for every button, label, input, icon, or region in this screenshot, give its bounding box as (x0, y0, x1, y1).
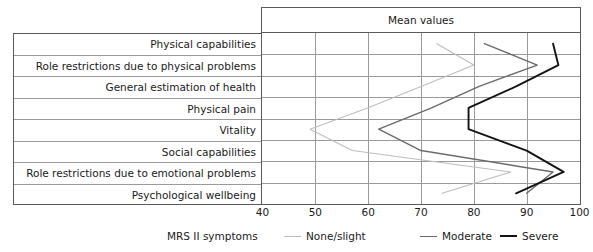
legend-item[interactable]: Moderate (420, 230, 492, 242)
category-label-table: Physical capabilitiesRole restrictions d… (13, 33, 261, 205)
legend-item[interactable]: Severe (500, 230, 558, 242)
plot-svg (262, 33, 580, 204)
legend-item[interactable]: None/slight (284, 230, 366, 242)
category-label-row: Psychological wellbeing (14, 185, 261, 207)
legend-strip: MRS II symptoms None/slightModerateSever… (0, 228, 593, 248)
category-label-row: Physical pain (14, 99, 261, 121)
category-label-text: Role restrictions due to emotional probl… (26, 168, 256, 179)
category-label-row: General estimation of health (14, 77, 261, 99)
x-axis-name: MRS II symptoms (167, 230, 258, 242)
x-tick-label: 90 (520, 206, 533, 218)
category-label-row: Role restrictions due to emotional probl… (14, 163, 261, 185)
category-label-row: Social capabilities (14, 142, 261, 164)
x-tick-label: 40 (256, 206, 269, 218)
chart-frame: Mean values (261, 7, 581, 205)
x-axis-tick-labels: 405060708090100 (261, 206, 581, 220)
category-label-row: Role restrictions due to physical proble… (14, 56, 261, 78)
x-tick-label: 50 (309, 206, 322, 218)
chart-root: Physical capabilitiesRole restrictions d… (0, 0, 593, 252)
category-label-text: General estimation of health (106, 82, 257, 93)
category-label-text: Social capabilities (162, 147, 256, 158)
legend-line-swatch (284, 236, 301, 237)
legend-line-swatch (500, 235, 517, 237)
x-tick-label: 80 (467, 206, 480, 218)
legend-line-swatch (420, 236, 437, 237)
category-label-text: Role restrictions due to physical proble… (36, 61, 256, 72)
chart-title: Mean values (262, 8, 580, 33)
category-label-row: Vitality (14, 120, 261, 142)
x-tick-label: 100 (569, 206, 589, 218)
category-label-row: Physical capabilities (14, 34, 261, 56)
x-tick-label: 70 (414, 206, 427, 218)
series-line-moderate (379, 44, 553, 194)
legend-label: None/slight (306, 230, 366, 242)
category-label-text: Physical pain (187, 104, 256, 115)
category-label-text: Psychological wellbeing (132, 190, 256, 201)
legend-label: Moderate (442, 230, 492, 242)
series-line-none-slight (310, 44, 511, 194)
plot-area (262, 33, 580, 204)
x-tick-label: 60 (361, 206, 374, 218)
category-label-text: Physical capabilities (150, 39, 256, 50)
legend-label: Severe (522, 230, 558, 242)
category-label-text: Vitality (219, 125, 256, 136)
